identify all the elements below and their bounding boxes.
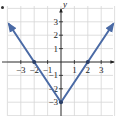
svg-text:2: 2 xyxy=(54,30,59,40)
svg-text:−1: −1 xyxy=(48,70,58,80)
axes xyxy=(2,9,114,116)
svg-text:1: 1 xyxy=(54,44,59,54)
svg-text:−3: −3 xyxy=(16,65,26,75)
svg-text:3: 3 xyxy=(54,17,59,27)
svg-text:−3: −3 xyxy=(48,97,58,107)
absolute-value-graph: −3−2−1123321−1−2−3 y xyxy=(0,0,117,116)
svg-text:2: 2 xyxy=(86,65,91,75)
y-axis-label: y xyxy=(62,0,67,9)
svg-text:3: 3 xyxy=(99,65,104,75)
svg-text:1: 1 xyxy=(72,65,77,75)
